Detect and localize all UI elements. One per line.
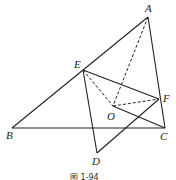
segment-AC (148, 17, 165, 128)
figure-caption: 图 1-94 (70, 173, 99, 180)
segment-ED (83, 70, 97, 153)
label-F: F (162, 92, 170, 104)
solid-lines (12, 17, 165, 153)
label-A: A (144, 2, 152, 14)
point-labels: A B C D E F O (6, 2, 170, 167)
label-B: B (6, 129, 13, 141)
geometry-diagram: A B C D E F O 图 1-94 (0, 0, 176, 180)
label-O: O (107, 110, 115, 122)
segment-DF (97, 99, 159, 153)
label-D: D (91, 155, 100, 167)
dashed-lines (83, 17, 159, 106)
label-C: C (160, 130, 168, 142)
label-E: E (73, 58, 81, 70)
segment-AB (12, 17, 148, 128)
